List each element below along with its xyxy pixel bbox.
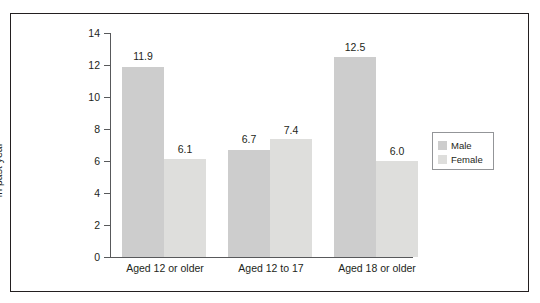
legend-swatch-male-icon	[438, 141, 447, 150]
legend-label-male: Male	[451, 140, 472, 151]
y-tick-mark-0	[104, 257, 110, 258]
bar-male-aged-12-or-older	[122, 67, 164, 257]
legend-label-female: Female	[451, 154, 483, 165]
legend-entry-male: Male	[438, 138, 472, 152]
y-tick-label-0: 0	[78, 251, 100, 263]
value-label-male-aged-12-or-older: 11.9	[122, 50, 164, 62]
bar-male-aged-12-to-17	[228, 150, 270, 257]
value-label-female-aged-18-or-older: 6.0	[376, 145, 418, 157]
legend-swatch-female-icon	[438, 155, 447, 164]
bar-male-aged-18-or-older	[334, 57, 376, 257]
legend-entry-female: Female	[438, 152, 483, 166]
bar-female-aged-18-or-older	[376, 161, 418, 257]
legend: Male Female	[432, 132, 494, 170]
y-axis-title-line-2: in past year	[0, 70, 5, 270]
y-axis-title: Percent dependent or abusing in past yea…	[0, 70, 5, 270]
y-tick-label-14: 14	[78, 27, 100, 39]
y-tick-label-10: 10	[78, 91, 100, 103]
x-axis-label-aged-18-or-older: Aged 18 or older	[314, 262, 440, 274]
value-label-female-aged-12-or-older: 6.1	[164, 143, 206, 155]
y-tick-label-4: 4	[78, 187, 100, 199]
plot-area	[110, 33, 420, 257]
chart-figure: Percent dependent or abusing in past yea…	[0, 0, 540, 303]
y-tick-label-8: 8	[78, 123, 100, 135]
y-tick-label-6: 6	[78, 155, 100, 167]
y-tick-label-2: 2	[78, 219, 100, 231]
bar-female-aged-12-to-17	[270, 139, 312, 257]
x-axis-line	[110, 257, 413, 258]
value-label-female-aged-12-to-17: 7.4	[270, 124, 312, 136]
value-label-male-aged-12-to-17: 6.7	[228, 133, 270, 145]
value-label-male-aged-18-or-older: 12.5	[334, 41, 376, 53]
bar-female-aged-12-or-older	[164, 159, 206, 257]
y-tick-label-12: 12	[78, 59, 100, 71]
